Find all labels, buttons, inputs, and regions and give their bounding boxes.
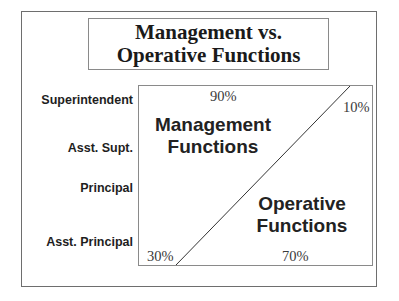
region-management-line-2: Functions (168, 136, 259, 158)
region-operative-line-1: Operative (258, 193, 346, 215)
region-operative-line-2: Functions (257, 215, 348, 237)
pct-bottom-management: 30% (147, 248, 174, 265)
region-operative: Operative Functions (246, 193, 358, 237)
region-management-line-1: Management (155, 114, 271, 136)
pct-bottom-operative: 70% (282, 248, 309, 265)
region-management: Management Functions (144, 114, 282, 158)
pct-top-operative: 10% (343, 99, 370, 116)
pct-top-management: 90% (210, 88, 237, 105)
